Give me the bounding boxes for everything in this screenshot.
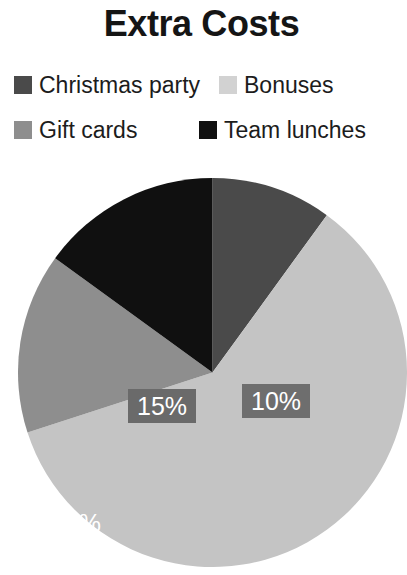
legend-swatch-bonuses-icon (219, 76, 237, 94)
chart-legend: Christmas party Bonuses Gift cards Team … (0, 72, 403, 164)
legend-swatch-christmas-party-icon (14, 76, 32, 94)
chart-title: Extra Costs (0, 2, 403, 46)
legend-label-team-lunches: Team lunches (224, 117, 366, 143)
legend-label-gift-cards: Gift cards (39, 117, 137, 143)
legend-swatch-team-lunches-icon (199, 121, 217, 139)
pie-svg (18, 178, 407, 567)
legend-label-bonuses: Bonuses (244, 72, 334, 98)
legend-label-christmas-party: Christmas party (39, 72, 200, 98)
legend-item-team-lunches[interactable]: Team lunches (199, 117, 366, 143)
pie-slices (18, 178, 407, 567)
pie-plot-area: 10% 60% 15% 15% (18, 178, 407, 567)
legend-swatch-gift-cards-icon (14, 121, 32, 139)
legend-item-christmas-party[interactable]: Christmas party (14, 72, 200, 98)
legend-item-gift-cards[interactable]: Gift cards (14, 117, 137, 143)
legend-item-bonuses[interactable]: Bonuses (219, 72, 334, 98)
